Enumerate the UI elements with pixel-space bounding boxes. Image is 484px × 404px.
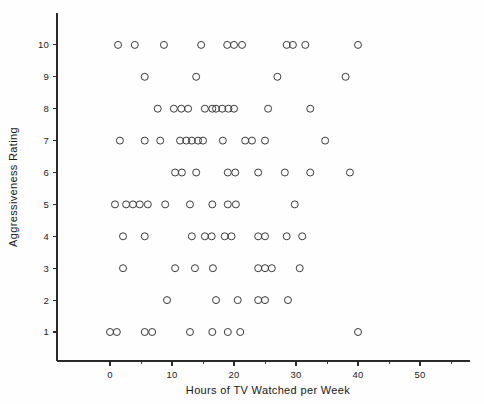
data-point: [186, 201, 193, 208]
x-tick-label-20: 20: [229, 369, 240, 380]
data-point: [219, 137, 226, 144]
data-point: [198, 41, 205, 48]
data-point: [224, 201, 231, 208]
data-point: [188, 233, 195, 240]
data-point: [157, 137, 164, 144]
data-point: [200, 137, 207, 144]
data-point: [299, 233, 306, 240]
data-point: [224, 329, 231, 336]
data-point: [355, 41, 362, 48]
data-point: [107, 329, 114, 336]
x-tick-label-40: 40: [353, 369, 364, 380]
data-point: [111, 201, 118, 208]
data-point: [262, 297, 269, 304]
data-point: [224, 169, 231, 176]
x-axis-tick-labels: 01020304050: [107, 369, 425, 380]
y-tick-label-7: 7: [44, 135, 49, 146]
data-point: [120, 233, 127, 240]
y-tick-label-6: 6: [44, 167, 49, 178]
x-tick-label-0: 0: [107, 369, 112, 380]
y-tick-label-5: 5: [44, 199, 49, 210]
data-point: [231, 41, 238, 48]
data-point: [221, 233, 228, 240]
data-point: [162, 201, 169, 208]
data-point: [234, 297, 241, 304]
data-point: [213, 297, 220, 304]
data-point: [178, 169, 185, 176]
data-point: [274, 73, 281, 80]
y-tick-label-9: 9: [44, 71, 49, 82]
y-tick-label-10: 10: [38, 39, 49, 50]
data-point: [191, 265, 198, 272]
data-point: [136, 201, 143, 208]
data-point: [154, 105, 161, 112]
data-point: [248, 137, 255, 144]
data-point: [242, 137, 249, 144]
data-point: [209, 265, 216, 272]
data-point: [193, 169, 200, 176]
data-point: [201, 233, 208, 240]
data-point: [265, 105, 272, 112]
y-tick-label-3: 3: [44, 263, 49, 274]
data-point: [120, 265, 127, 272]
y-axis-tick-labels: 12345678910: [38, 39, 49, 337]
data-point: [262, 137, 269, 144]
data-point: [172, 265, 179, 272]
data-point: [208, 233, 215, 240]
x-axis-title: Hours of TV Watched per Week: [186, 384, 350, 396]
data-point: [296, 265, 303, 272]
data-point: [322, 137, 329, 144]
data-point: [239, 41, 246, 48]
data-point: [255, 233, 262, 240]
data-point: [172, 169, 179, 176]
data-point: [141, 137, 148, 144]
y-tick-label-1: 1: [44, 326, 49, 337]
data-point: [115, 41, 122, 48]
data-point: [193, 73, 200, 80]
data-point: [307, 105, 314, 112]
y-tick-label-2: 2: [44, 295, 49, 306]
y-axis-ticks: [53, 45, 58, 332]
data-point: [232, 201, 239, 208]
data-point: [141, 73, 148, 80]
data-point: [185, 105, 192, 112]
data-point: [113, 329, 120, 336]
data-point-markers: [107, 41, 362, 335]
y-tick-label-4: 4: [44, 231, 49, 242]
x-axis-ticks: [110, 361, 451, 366]
data-point: [186, 329, 193, 336]
data-point: [342, 73, 349, 80]
axes: [57, 13, 470, 361]
data-point: [346, 169, 353, 176]
data-point: [281, 169, 288, 176]
data-point: [141, 233, 148, 240]
data-point: [291, 201, 298, 208]
x-tick-label-30: 30: [291, 369, 302, 380]
data-point: [228, 233, 235, 240]
data-point: [160, 41, 167, 48]
data-point: [170, 105, 177, 112]
data-point: [262, 265, 269, 272]
data-point: [232, 169, 239, 176]
data-point: [144, 201, 151, 208]
data-point: [123, 201, 130, 208]
data-point: [237, 329, 244, 336]
data-point: [129, 201, 136, 208]
data-point: [164, 297, 171, 304]
y-axis-title: Aggressiveness Rating: [7, 127, 19, 247]
data-point: [131, 41, 138, 48]
plot-canvas: 12345678910 01020304050 Hours of TV Watc…: [0, 0, 484, 404]
data-point: [355, 329, 362, 336]
data-point: [255, 265, 262, 272]
data-point: [201, 105, 208, 112]
data-point: [307, 169, 314, 176]
data-point: [224, 41, 231, 48]
data-point: [283, 233, 290, 240]
data-point: [302, 41, 309, 48]
data-point: [255, 169, 262, 176]
data-point: [255, 297, 262, 304]
data-point: [149, 329, 156, 336]
data-point: [284, 297, 291, 304]
data-point: [209, 329, 216, 336]
x-tick-label-10: 10: [167, 369, 178, 380]
